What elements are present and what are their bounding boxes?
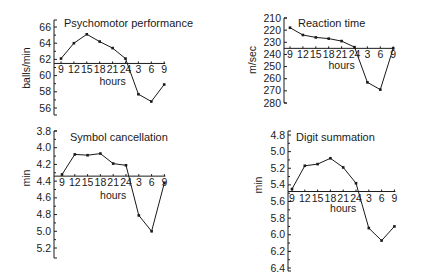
data-point	[137, 93, 140, 96]
chart-title: Reaction time	[298, 17, 365, 29]
data-point	[392, 47, 395, 50]
x-tick-label: 6	[149, 176, 155, 188]
x-tick-label: 9	[58, 63, 64, 75]
x-tick-label: 9	[287, 48, 293, 60]
chart-psychomotor-performance: 666462605856balls/minPsychomotor perform…	[20, 17, 193, 115]
y-tick-label: 5.2	[36, 242, 51, 254]
data-point	[111, 47, 114, 50]
y-tick-label: 230	[263, 36, 281, 48]
data-point	[86, 33, 89, 36]
chart-title: Psychomotor performance	[64, 17, 193, 29]
y-tick-label: 240	[263, 48, 281, 60]
data-point	[366, 81, 369, 84]
chart-digit-summation: 4.85.05.25.45.65.86.06.26.4minDigit summ…	[252, 129, 397, 274]
chart-symbol-cancellation: 3.84.04.24.44.64.85.05.2minSymbol cancel…	[20, 125, 168, 259]
y-tick-label: 260	[263, 72, 281, 84]
y-tick-label: 4.6	[36, 191, 51, 203]
data-point	[98, 40, 101, 43]
x-tick-label: 18	[95, 176, 107, 188]
data-point	[125, 164, 128, 167]
y-tick-label: 210	[263, 12, 281, 24]
y-tick-label: 4.0	[36, 141, 51, 153]
data-point	[86, 154, 89, 157]
x-tick-label: 12	[297, 48, 309, 60]
y-tick-label: 66	[39, 21, 51, 33]
data-point	[380, 239, 383, 242]
data-point	[112, 162, 115, 165]
y-tick-label: 62	[39, 53, 51, 65]
y-tick-label: 280	[263, 97, 281, 109]
x-tick-label: 21	[107, 63, 119, 75]
y-tick-label: 6.0	[270, 228, 285, 240]
data-point	[150, 100, 153, 103]
x-axis-label: hours	[99, 75, 125, 87]
y-axis-label: m/sec	[246, 46, 258, 74]
y-tick-label: 4.4	[36, 175, 51, 187]
x-tick-label: 15	[82, 176, 94, 188]
y-tick-label: 58	[39, 85, 51, 97]
data-point	[163, 182, 166, 185]
x-tick-label: 15	[310, 48, 322, 60]
data-point	[150, 230, 153, 233]
x-tick-label: 6	[379, 192, 385, 204]
y-tick-label: 5.8	[270, 212, 285, 224]
y-tick-label: 5.4	[270, 178, 285, 190]
x-tick-label: 3	[364, 48, 370, 60]
charts-canvas: 666462605856balls/minPsychomotor perform…	[0, 0, 421, 280]
data-point	[99, 152, 102, 155]
chart-title: Digit summation	[296, 131, 375, 143]
data-point	[393, 225, 396, 228]
x-tick-label: 21	[107, 176, 119, 188]
data-point	[61, 173, 64, 176]
data-point	[74, 153, 77, 156]
x-axis-label: hours	[328, 59, 354, 71]
x-tick-label: 3	[135, 63, 141, 75]
data-point	[315, 36, 318, 39]
x-tick-label: 9	[289, 192, 295, 204]
x-tick-label: 3	[136, 176, 142, 188]
y-tick-label: 5.2	[270, 162, 285, 174]
chart-title: Symbol cancellation	[70, 131, 168, 143]
x-tick-label: 18	[94, 63, 106, 75]
y-tick-label: 3.8	[36, 125, 51, 137]
x-tick-label: 15	[81, 63, 93, 75]
x-tick-label: 12	[68, 63, 80, 75]
y-tick-label: 4.8	[270, 129, 285, 141]
data-point	[368, 227, 371, 230]
data-point	[124, 57, 127, 60]
y-axis-label: min	[20, 169, 32, 186]
data-point	[289, 26, 292, 29]
x-tick-label: 12	[299, 192, 311, 204]
x-axis-label: hours	[330, 202, 356, 214]
x-tick-label: 12	[69, 176, 81, 188]
y-tick-label: 6.4	[270, 262, 285, 274]
x-tick-label: 6	[377, 48, 383, 60]
data-point	[291, 188, 294, 191]
data-point	[355, 182, 358, 185]
data-point	[60, 57, 63, 60]
x-tick-label: 9	[161, 63, 167, 75]
y-tick-label: 250	[263, 60, 281, 72]
data-point	[304, 164, 307, 167]
y-axis-label: balls/min	[20, 47, 32, 89]
x-tick-label: 9	[391, 192, 397, 204]
data-point	[340, 40, 343, 43]
data-point	[316, 163, 319, 166]
y-axis-label: min	[252, 176, 264, 193]
y-tick-label: 5.0	[36, 225, 51, 237]
y-tick-label: 220	[263, 24, 281, 36]
y-tick-label: 4.8	[36, 208, 51, 220]
y-tick-label: 56	[39, 102, 51, 114]
y-tick-label: 60	[39, 69, 51, 81]
chart-reaction-time: 210220230240250260270280m/secReaction ti…	[246, 12, 396, 109]
x-tick-label: 6	[148, 63, 154, 75]
figure: 666462605856balls/minPsychomotor perform…	[0, 0, 421, 280]
y-tick-label: 6.2	[270, 245, 285, 257]
data-point	[353, 46, 356, 49]
x-tick-label: 15	[312, 192, 324, 204]
y-tick-label: 5.6	[270, 195, 285, 207]
x-axis-label: hours	[100, 189, 126, 201]
y-tick-label: 4.2	[36, 158, 51, 170]
data-point	[379, 88, 382, 91]
data-point	[327, 37, 330, 40]
